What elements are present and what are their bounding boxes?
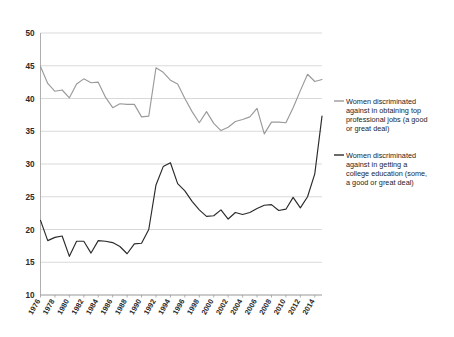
legend-label-2: a good or great deal) [346,178,414,187]
y-tick-label: 40 [25,95,35,104]
data-series-group [41,66,323,256]
x-tick-label: 1996 [171,298,187,317]
y-tick-label: 45 [25,62,35,71]
x-tick-label: 2012 [286,298,302,317]
y-tick-label: 35 [25,127,35,136]
x-tick-label: 2014 [300,297,316,317]
legend-label-2: against in getting a [346,160,408,169]
x-tick-label: 1982 [70,298,86,317]
series-line-2 [41,116,323,256]
x-tick-label: 2006 [243,298,259,317]
x-axis-tick-labels: 1976197819801982198419861988199019921994… [26,295,317,316]
legend-label-1: against in obtaining top [346,106,421,115]
x-tick-label: 2000 [199,297,215,316]
x-tick-label: 2002 [214,298,230,317]
x-tick-label: 1976 [26,298,42,317]
legend-label-1: professional jobs (a good [346,115,428,124]
gridlines-group [41,33,323,295]
legend-label-2: Women discriminated [346,151,416,160]
y-tick-label: 20 [25,226,35,235]
chart-legend: Women discriminatedagainst in obtaining … [334,97,428,188]
y-tick-label: 25 [25,193,35,202]
legend-label-1: or great deal) [346,124,389,133]
y-tick-label: 30 [25,160,35,169]
x-tick-label: 1994 [156,297,172,317]
x-tick-label: 2008 [257,297,273,316]
y-axis-tick-labels: 101520253035404550 [25,29,35,300]
x-tick-label: 1986 [98,298,114,317]
x-tick-label: 1980 [55,297,71,316]
y-tick-label: 50 [25,29,35,38]
x-tick-label: 1992 [142,298,158,317]
legend-label-2: college education (some, [346,169,427,178]
series-line-1 [41,66,323,133]
x-tick-label: 2004 [228,297,244,317]
legend-label-1: Women discriminated [346,97,416,106]
x-tick-label: 2010 [272,297,288,316]
chart-container: 101520253035404550 197619781980198219841… [0,0,454,337]
x-tick-label: 1984 [84,297,100,317]
x-tick-label: 1998 [185,297,201,316]
x-tick-label: 1988 [113,298,129,317]
x-tick-label: 1978 [41,298,57,317]
x-tick-label: 1990 [127,297,143,316]
line-chart: 101520253035404550 197619781980198219841… [0,0,454,337]
y-tick-label: 15 [25,258,35,267]
